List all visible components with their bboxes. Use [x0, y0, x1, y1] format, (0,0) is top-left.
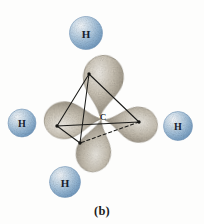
vertex-right	[137, 120, 140, 123]
hydrogen-label-top: H	[82, 28, 91, 40]
hydrogen-atom-right: H	[164, 112, 193, 141]
vertex-left	[55, 124, 58, 127]
hydrogen-label-bottom: H	[61, 177, 70, 189]
hydrogen-atom-bottom: H	[50, 167, 81, 198]
sp3-lobe-top	[80, 54, 125, 118]
methane-sp3-orbital-figure: C H H H H (b)	[0, 0, 204, 224]
carbon-atom-label: C	[100, 112, 107, 122]
hydrogen-label-right: H	[174, 121, 182, 132]
hydrogen-atom-left: H	[8, 109, 36, 137]
hydrogen-label-left: H	[18, 118, 26, 129]
hydrogen-atom-top: H	[70, 17, 103, 50]
figure-caption: (b)	[0, 204, 204, 219]
vertex-top	[87, 72, 90, 75]
molecule-diagram: C H H H H	[0, 0, 204, 224]
vertex-front	[78, 141, 81, 144]
